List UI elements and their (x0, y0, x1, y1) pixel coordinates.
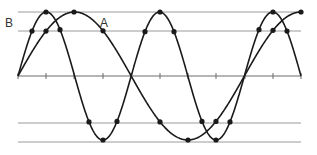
wave-b-point-0 (29, 29, 34, 34)
wave-b-point-13 (270, 9, 275, 14)
wave-a-point-0 (43, 29, 48, 34)
wave-b-point-5 (114, 119, 119, 124)
wave-b-point-11 (227, 119, 232, 124)
wave-a-point-6 (270, 28, 275, 33)
wave-b-point-14 (284, 29, 289, 34)
wave-a-point-7 (298, 9, 303, 14)
wave-a-point-4 (185, 137, 190, 142)
wave-b-point-10 (213, 137, 218, 142)
label-wave-b: B (5, 17, 13, 29)
label-wave-a: A (100, 17, 108, 29)
wave-b-point-12 (256, 27, 261, 32)
wave-a-point-5 (213, 119, 218, 124)
wave-b-point-6 (142, 29, 147, 34)
wave-a-point-1 (71, 9, 76, 14)
wave-b-point-2 (57, 27, 62, 32)
wave-a-point-3 (157, 119, 162, 124)
wave-b-point-8 (171, 29, 176, 34)
wave-b-point-1 (43, 9, 48, 14)
wave-diagram: B A (0, 0, 317, 155)
wave-b-point-3 (86, 119, 91, 124)
wave-b-point-9 (199, 119, 204, 124)
wave-b-point-4 (100, 137, 105, 142)
wave-b-point-7 (157, 9, 162, 14)
wave-canvas (0, 0, 317, 155)
